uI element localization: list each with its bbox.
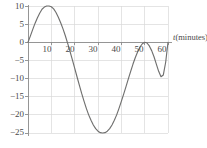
y-tick-label--20: −20 — [0, 110, 24, 119]
x-tick-label-10: 10 — [39, 45, 55, 54]
tick-marks — [25, 6, 168, 133]
x-tick-label-50: 50 — [131, 45, 147, 54]
y-tick-label--10: −10 — [0, 74, 24, 83]
chart-container: 10 5 0 −5 −10 −15 −20 −25 10 20 30 40 50… — [0, 0, 207, 148]
y-tick-label--15: −15 — [0, 92, 24, 101]
x-tick-label-20: 20 — [62, 45, 78, 54]
axis-lines — [26, 5, 172, 136]
chart-plot-svg — [0, 0, 207, 148]
y-tick-label-10: 10 — [0, 2, 24, 11]
y-tick-label--25: −25 — [0, 128, 24, 137]
x-tick-label-30: 30 — [85, 45, 101, 54]
y-tick-label-5: 5 — [0, 20, 24, 29]
x-tick-label-40: 40 — [108, 45, 124, 54]
y-tick-label-0: 0 — [0, 38, 24, 47]
x-axis-title-unit: (minutes) — [175, 32, 207, 42]
y-tick-label--5: −5 — [0, 56, 24, 65]
x-tick-label-60: 60 — [154, 45, 170, 54]
x-axis-title: t(minutes) — [173, 33, 207, 42]
vertical-gridlines — [28, 6, 168, 133]
